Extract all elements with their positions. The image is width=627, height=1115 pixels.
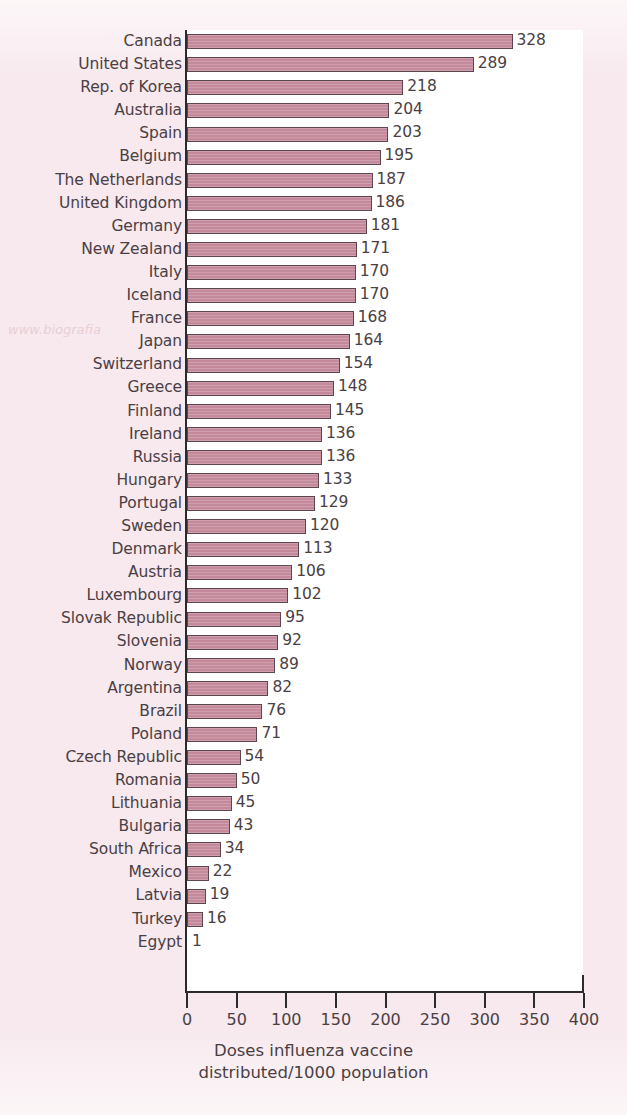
x-tick-label: 0 xyxy=(182,1011,192,1029)
x-tick-mark xyxy=(385,993,387,1008)
x-axis-title-line-1: Doses influenza vaccine xyxy=(0,1040,627,1062)
x-tick-mark xyxy=(583,993,585,1008)
x-axis-ticks: 050100150200250300350400 xyxy=(0,0,627,1115)
x-tick-mark xyxy=(186,993,188,1008)
x-tick-mark xyxy=(285,993,287,1008)
x-tick-mark xyxy=(434,993,436,1008)
x-tick-label: 350 xyxy=(519,1011,550,1029)
x-tick-mark xyxy=(335,993,337,1008)
chart-page: www.biografia Canada328United States289R… xyxy=(0,0,627,1115)
x-tick-label: 300 xyxy=(469,1011,500,1029)
x-tick-mark xyxy=(236,993,238,1008)
x-tick-label: 150 xyxy=(321,1011,352,1029)
x-tick-label: 250 xyxy=(420,1011,451,1029)
x-tick-label: 200 xyxy=(370,1011,401,1029)
x-tick-mark xyxy=(533,993,535,1008)
x-tick-mark xyxy=(484,993,486,1008)
x-axis-title-line-2: distributed/1000 population xyxy=(0,1062,627,1084)
x-tick-label: 400 xyxy=(569,1011,600,1029)
x-tick-label: 100 xyxy=(271,1011,302,1029)
x-axis-title: Doses influenza vaccine distributed/1000… xyxy=(0,1040,627,1084)
x-tick-label: 50 xyxy=(226,1011,246,1029)
